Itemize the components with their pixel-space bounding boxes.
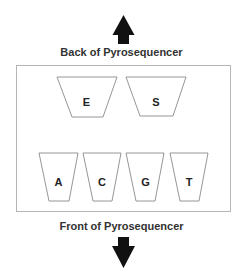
cup-label: A bbox=[55, 176, 63, 188]
back-label: Back of Pyrosequencer bbox=[0, 46, 243, 58]
arrow-up-icon bbox=[113, 15, 135, 44]
cup-label: E bbox=[83, 96, 90, 108]
cup-label: C bbox=[98, 176, 106, 188]
arrow-down-icon bbox=[112, 237, 135, 268]
cup-label: T bbox=[186, 176, 193, 188]
cup-label: G bbox=[141, 176, 150, 188]
front-label: Front of Pyrosequencer bbox=[0, 220, 243, 232]
cup-label: S bbox=[152, 96, 159, 108]
pyrosequencer-diagram: E S A C G T bbox=[0, 0, 243, 280]
